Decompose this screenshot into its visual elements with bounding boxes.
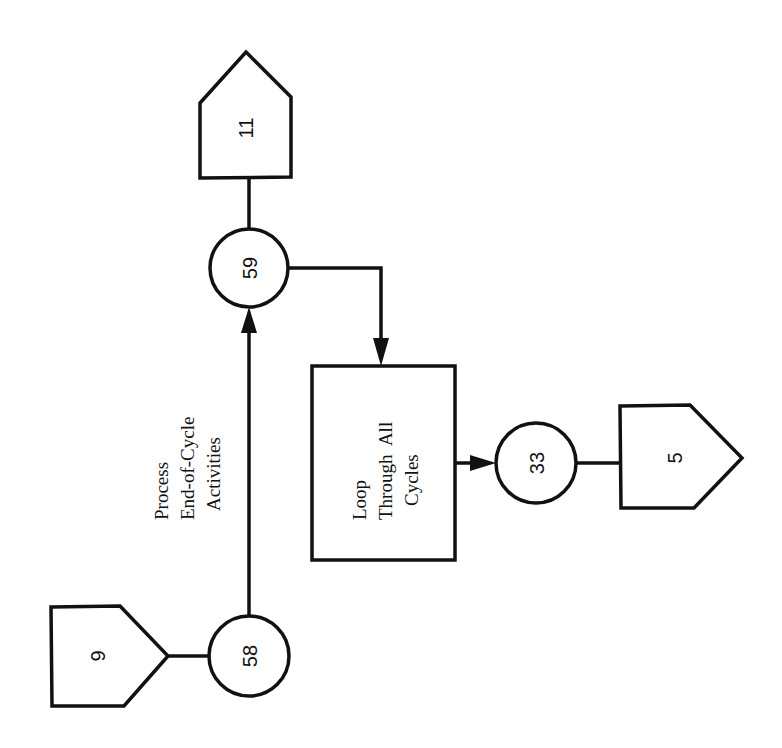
arrowhead-up-icon xyxy=(241,307,257,333)
node-label: 9 xyxy=(87,650,109,661)
flowchart-canvas: 9 58 59 11 Loop Through All Cycles 33 5 … xyxy=(0,0,782,748)
node-label: 59 xyxy=(239,257,261,279)
process-label-line-2: Through All xyxy=(375,422,396,520)
edge-59-to-loop xyxy=(288,268,381,342)
arrowhead-right-icon xyxy=(470,455,496,471)
process-label-line-3: Cycles xyxy=(401,454,422,506)
node-label: 33 xyxy=(526,452,548,474)
node-label: 5 xyxy=(664,452,686,463)
pentagon-shape xyxy=(51,606,168,706)
node-label: 58 xyxy=(239,645,261,667)
process-loop-through-all-cycles[interactable]: Loop Through All Cycles xyxy=(312,366,455,560)
node-label: 11 xyxy=(235,118,257,139)
connector-58[interactable]: 58 xyxy=(209,616,289,696)
annotation-line-2: End-of-Cycle xyxy=(177,417,198,520)
connector-59[interactable]: 59 xyxy=(210,229,288,307)
connector-33[interactable]: 33 xyxy=(496,423,576,503)
annotation-process-end-of-cycle: Process End-of-Cycle Activities xyxy=(151,417,224,520)
arrowhead-down-icon xyxy=(373,338,389,366)
annotation-line-1: Process xyxy=(151,462,172,520)
off-page-connector-9[interactable]: 9 xyxy=(51,606,168,706)
off-page-connector-11[interactable]: 11 xyxy=(200,52,291,178)
process-label-line-1: Loop xyxy=(349,480,370,520)
annotation-line-3: Activities xyxy=(203,437,224,511)
pentagon-shape xyxy=(200,52,291,178)
off-page-connector-5[interactable]: 5 xyxy=(620,405,742,508)
